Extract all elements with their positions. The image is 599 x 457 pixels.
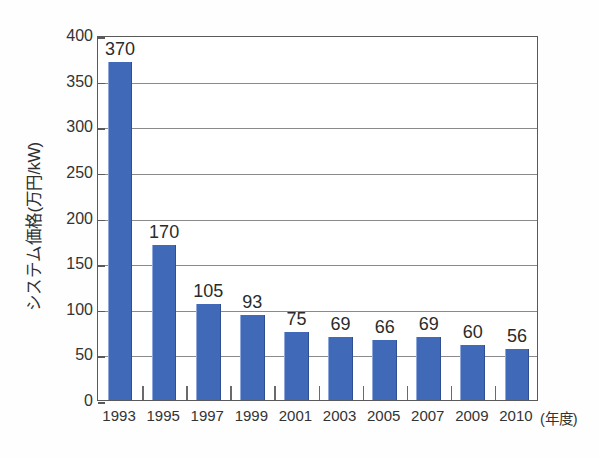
y-tick-label: 100: [47, 301, 93, 319]
x-tick-label: 1999: [235, 407, 268, 424]
x-axis-tick-labels: 1993199519971999200120032005200720092010: [97, 407, 538, 431]
bars-layer: 37017010593756966696056: [98, 37, 537, 400]
bar-group: 66: [363, 37, 407, 400]
bar-group: 370: [98, 37, 142, 400]
y-tick-label: 200: [47, 210, 93, 228]
bar-value-label: 69: [319, 314, 363, 335]
y-tick-label: 400: [47, 27, 93, 45]
x-tick-label: 1997: [191, 407, 224, 424]
plot-area: 37017010593756966696056: [97, 36, 538, 401]
y-tick-label: 350: [47, 73, 93, 91]
x-axis-unit-label: (年度): [540, 407, 578, 428]
x-tick-label: 2001: [279, 407, 312, 424]
bar-group: 93: [230, 37, 274, 400]
bar-group: 69: [319, 37, 363, 400]
x-tick-label: 1993: [102, 407, 135, 424]
bar-chart-figure: システム価格(万円/kW) 400350300250200150100500 3…: [0, 0, 599, 457]
bar-value-label: 75: [274, 309, 318, 330]
y-tick-label: 250: [47, 164, 93, 182]
y-tick-mark: [98, 402, 105, 404]
x-tick-label: 2010: [499, 407, 532, 424]
bar-value-label: 370: [98, 39, 142, 60]
bar[interactable]: [372, 340, 397, 400]
y-tick-label: 150: [47, 255, 93, 273]
bar-group: 56: [495, 37, 539, 400]
bar-value-label: 69: [407, 314, 451, 335]
x-tick-label: 1995: [146, 407, 179, 424]
x-tick-label: 2007: [411, 407, 444, 424]
y-tick-label: 300: [47, 118, 93, 136]
bar-group: 105: [186, 37, 230, 400]
y-tick-label: 0: [47, 392, 93, 410]
bar-value-label: 60: [451, 322, 495, 343]
x-tick-label: 2009: [455, 407, 488, 424]
bar-value-label: 105: [186, 281, 230, 302]
bar-value-label: 66: [363, 317, 407, 338]
bar[interactable]: [284, 332, 309, 400]
bar[interactable]: [152, 245, 177, 400]
x-tick-label: 2005: [367, 407, 400, 424]
bar[interactable]: [196, 304, 221, 400]
bar-group: 60: [451, 37, 495, 400]
bar[interactable]: [240, 315, 265, 400]
bar[interactable]: [505, 349, 530, 400]
bar-group: 75: [274, 37, 318, 400]
bar[interactable]: [328, 337, 353, 400]
bar-group: 69: [407, 37, 451, 400]
y-tick-label: 50: [47, 346, 93, 364]
bar[interactable]: [460, 345, 485, 400]
bar[interactable]: [416, 337, 441, 400]
x-tick-label: 2003: [323, 407, 356, 424]
bar[interactable]: [108, 62, 133, 400]
bar-value-label: 170: [142, 222, 186, 243]
bar-group: 170: [142, 37, 186, 400]
bar-value-label: 93: [230, 292, 274, 313]
y-axis-title: システム価格(万円/kW): [21, 57, 45, 397]
bar-value-label: 56: [495, 326, 539, 347]
